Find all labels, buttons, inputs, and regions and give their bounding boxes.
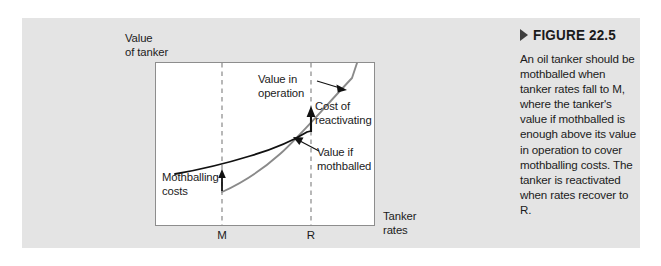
figure-caption-text: An oil tanker should be mothballed when … [520,51,638,217]
caption-column: FIGURE 22.5 An oil tanker should be moth… [518,18,640,248]
annotation-cost-of-reactivating: Cost of reactivating [315,100,372,127]
figure-heading: FIGURE 22.5 [520,27,622,43]
figure-root: Value of tanker [0,0,661,266]
figure-panel: Value of tanker [22,18,640,248]
y-axis-label: Value of tanker [125,32,168,59]
annotation-mothballing-costs: Mothballing costs [162,171,219,198]
annotation-value-in-operation: Value in operation [258,73,304,100]
x-axis-label: Tanker rates [383,210,416,237]
triangle-right-icon [520,29,528,41]
x-tick-label-r: R [301,229,321,241]
x-tick-label-m: M [212,229,232,241]
annotation-value-if-mothballed: Value if mothballed [317,146,371,173]
chart-region: Value of tanker [22,18,492,248]
figure-number-title: FIGURE 22.5 [533,27,616,43]
